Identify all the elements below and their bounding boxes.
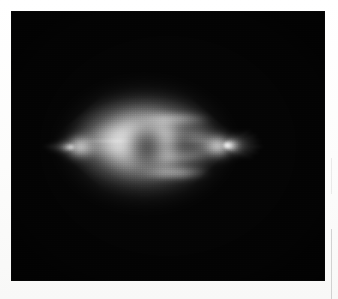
- astral-ray: [47, 146, 73, 152]
- astral-ray: [49, 141, 73, 148]
- chromatin-shadow: [115, 109, 179, 185]
- equatorial-band: [59, 119, 231, 165]
- astral-ray: [60, 146, 74, 155]
- astral-ray: [224, 131, 236, 146]
- astral-ray: [225, 139, 261, 147]
- pole-left: [45, 125, 101, 169]
- astral-ray: [60, 138, 74, 147]
- interzonal-striation: [141, 133, 211, 142]
- astral-ray: [224, 129, 243, 146]
- plate-vignette: [11, 11, 325, 281]
- astral-ray: [224, 144, 254, 159]
- scan-rule-lower-icon: [331, 229, 332, 299]
- astral-ray: [225, 133, 258, 146]
- chromatin-shadow-right: [161, 107, 215, 179]
- astral-ray: [54, 146, 73, 155]
- spindle-halo: [41, 53, 249, 235]
- interzonal-striation: [141, 151, 211, 160]
- astral-ray: [55, 139, 73, 148]
- spindle-body-lower: [55, 139, 235, 227]
- micrograph-plate: [11, 11, 325, 281]
- halftone-dither: [11, 11, 325, 281]
- spindle-body-upper: [55, 59, 235, 143]
- interzonal-striation: [137, 168, 211, 177]
- scan-noise: [11, 11, 325, 281]
- interzonal-striation: [137, 115, 211, 124]
- scanned-page: [0, 0, 338, 299]
- astral-ray: [225, 144, 263, 148]
- astral-ray: [43, 145, 73, 149]
- astral-ray: [224, 144, 247, 160]
- pole-right: [197, 121, 259, 171]
- astral-ray: [224, 129, 251, 146]
- micrograph-field: [11, 11, 325, 281]
- scan-softness: [11, 11, 325, 281]
- astral-ray: [224, 144, 240, 160]
- scan-rule-upper-icon: [331, 158, 332, 194]
- astral-ray: [225, 144, 260, 154]
